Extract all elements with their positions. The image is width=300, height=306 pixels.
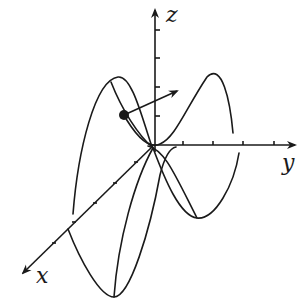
curve	[68, 74, 239, 297]
y-axis-label: y	[281, 150, 295, 175]
3d-curve-diagram: z y x	[0, 0, 300, 306]
z-axis-label: z	[165, 2, 178, 27]
x-axis: x	[23, 146, 153, 288]
tangent-vector-arrow	[124, 91, 177, 115]
y-axis: y	[152, 141, 295, 175]
x-axis-label: x	[36, 263, 49, 288]
